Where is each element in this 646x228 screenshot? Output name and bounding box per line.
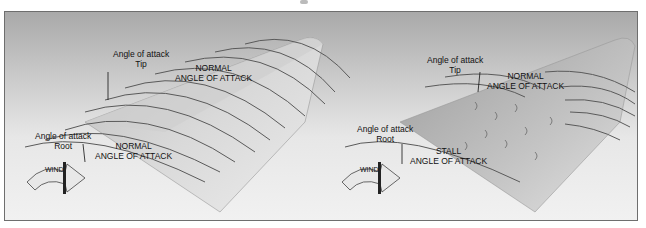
cropped-caption-fragment — [300, 0, 308, 4]
right-tip-condition: NORMAL ANGLE OF ATTACK — [487, 71, 564, 91]
right-wind-label: WIND — [360, 165, 379, 175]
diagram-frame: Angle of attack Tip NORMAL ANGLE OF ATTA… — [4, 11, 638, 221]
label-line: NORMAL — [175, 63, 252, 73]
label-line: ANGLE OF ATTACK — [95, 151, 172, 161]
left-root-label: Angle of attack Root — [35, 131, 91, 151]
tip-angle-arrow-right — [478, 72, 480, 92]
label-line: Angle of attack — [427, 55, 483, 65]
wing-illustration — [5, 12, 637, 220]
label-line: Root — [357, 134, 413, 144]
label-line: Angle of attack — [357, 124, 413, 134]
right-root-condition: STALL ANGLE OF ATTACK — [410, 146, 487, 166]
label-line: Root — [35, 141, 91, 151]
label-line: Tip — [113, 59, 169, 69]
label-line: Angle of attack — [113, 49, 169, 59]
label-line: ANGLE OF ATTACK — [175, 73, 252, 83]
right-tip-label: Angle of attack Tip — [427, 55, 483, 75]
left-root-condition: NORMAL ANGLE OF ATTACK — [95, 141, 172, 161]
left-wind-label: WIND — [45, 165, 64, 175]
label-line: ANGLE OF ATTACK — [487, 81, 564, 91]
label-line: NORMAL — [487, 71, 564, 81]
label-line: STALL — [410, 146, 487, 156]
label-line: NORMAL — [95, 141, 172, 151]
label-line: Angle of attack — [35, 131, 91, 141]
right-root-label: Angle of attack Root — [357, 124, 413, 144]
label-line: Tip — [427, 65, 483, 75]
label-line: ANGLE OF ATTACK — [410, 156, 487, 166]
left-tip-condition: NORMAL ANGLE OF ATTACK — [175, 63, 252, 83]
left-tip-label: Angle of attack Tip — [113, 49, 169, 69]
